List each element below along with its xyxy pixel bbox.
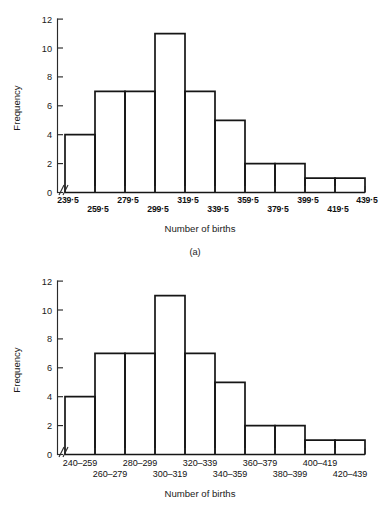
x-tick-labels-b: 240–259 260–279 280–299 300–319 320–339 …	[63, 458, 367, 479]
x-tick-label-a-2: 279·5	[117, 195, 139, 205]
bar-a-9	[305, 178, 335, 192]
x-tick-label-a-9: 419·5	[327, 204, 349, 214]
y-ticks-a	[58, 19, 64, 192]
x-tick-label-a-5: 339·5	[207, 204, 229, 214]
x-tick-label-a-4: 319·5	[177, 195, 199, 205]
x-tick-labels-a: 239·5 259·5 279·5 299·5 319·5 339·5 359·…	[57, 195, 378, 214]
bar-b-9	[305, 440, 335, 454]
x-tick-label-a-3: 299·5	[147, 204, 169, 214]
histogram-b-svg: Frequency 0 2 4 6 8 10 12	[0, 262, 385, 519]
y-tick-label-2: 2	[47, 421, 52, 431]
x-tick-label-a-6: 359·5	[237, 195, 259, 205]
y-axis-title-a: Frequency	[11, 85, 22, 131]
bar-a-2	[95, 91, 125, 192]
x-tick-label-a-10: 439·5	[356, 195, 378, 205]
y-tick-label-12: 12	[42, 277, 52, 287]
y-tick-label-6: 6	[47, 363, 52, 373]
y-tick-label-10: 10	[42, 44, 52, 54]
y-tick-label-4: 4	[47, 392, 52, 402]
histogram-panel-b: Frequency 0 2 4 6 8 10 12	[0, 262, 385, 519]
bar-b-4	[155, 296, 185, 455]
bar-b-5	[185, 353, 215, 454]
bar-b-7	[245, 426, 275, 455]
bar-a-7	[245, 164, 275, 193]
x-tick-label-b-6: 360–379	[243, 458, 277, 468]
bar-b-6	[215, 382, 245, 454]
panel-caption-a: (a)	[189, 247, 200, 257]
bar-a-10	[335, 178, 365, 192]
y-tick-label-6: 6	[47, 101, 52, 111]
y-tick-label-4: 4	[47, 130, 52, 140]
bar-a-1	[65, 135, 95, 193]
bar-b-8	[275, 426, 305, 455]
bar-b-10	[335, 440, 365, 454]
y-axis-title-b: Frequency	[11, 347, 22, 393]
axis-break-icon-b	[59, 447, 68, 457]
y-tick-labels-a: 0 2 4 6 8 10 12	[42, 15, 52, 198]
x-tick-label-b-5: 340–359	[213, 469, 247, 479]
x-tick-label-b-4: 320–339	[183, 458, 217, 468]
x-tick-label-b-2: 280–299	[123, 458, 157, 468]
axis-break-icon-a	[59, 185, 68, 195]
y-tick-label-8: 8	[47, 334, 52, 344]
bars-b	[65, 296, 365, 455]
histogram-a-svg: Frequency 0 2 4 6 8 10 12	[0, 0, 385, 262]
x-tick-label-a-1: 259·5	[87, 204, 109, 214]
bar-a-6	[215, 120, 245, 192]
y-tick-label-2: 2	[47, 159, 52, 169]
x-ticks-b	[65, 448, 365, 455]
y-tick-label-10: 10	[42, 306, 52, 316]
bar-a-4	[155, 34, 185, 193]
bar-a-8	[275, 164, 305, 193]
x-tick-label-b-7: 380–399	[273, 469, 307, 479]
x-axis-title-b: Number of births	[165, 488, 236, 499]
x-tick-label-b-9: 420–439	[333, 469, 367, 479]
bar-b-2	[95, 353, 125, 454]
x-tick-label-a-7: 379·5	[267, 204, 289, 214]
x-tick-label-b-0: 240–259	[63, 458, 97, 468]
x-axis-title-a: Number of births	[165, 223, 236, 234]
bar-a-5	[185, 91, 215, 192]
x-tick-label-b-1: 260–279	[93, 469, 127, 479]
x-tick-label-b-8: 400–419	[303, 458, 337, 468]
y-tick-label-0: 0	[47, 188, 52, 198]
y-tick-label-12: 12	[42, 15, 52, 25]
x-tick-label-a-8: 399·5	[297, 195, 319, 205]
bar-a-3	[125, 91, 155, 192]
x-ticks-a	[65, 186, 365, 193]
histogram-panel-a: Frequency 0 2 4 6 8 10 12	[0, 0, 385, 262]
x-tick-label-a-0: 239·5	[57, 195, 79, 205]
y-tick-labels-b: 0 2 4 6 8 10 12	[42, 277, 52, 460]
y-ticks-b	[58, 281, 64, 454]
bar-b-1	[65, 397, 95, 455]
y-tick-label-0: 0	[47, 450, 52, 460]
y-tick-label-8: 8	[47, 72, 52, 82]
bars-a	[65, 34, 365, 193]
x-tick-label-b-3: 300–319	[153, 469, 187, 479]
bar-b-3	[125, 353, 155, 454]
